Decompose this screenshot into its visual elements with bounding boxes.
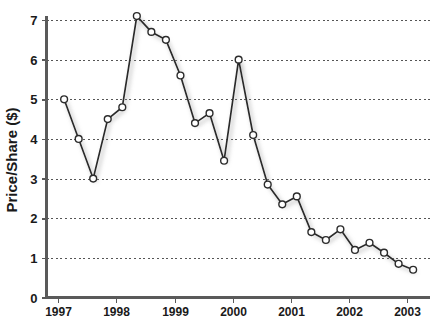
y-tick-label-7: 7: [30, 13, 37, 28]
x-axis-tick-labels: 1997199819992000200120022003: [45, 305, 421, 319]
data-point-marker: [264, 181, 271, 188]
x-tick-label-1997: 1997: [45, 305, 72, 319]
data-point-marker: [192, 120, 199, 127]
data-point-marker: [148, 29, 155, 36]
y-axis-title: Price/Share ($): [3, 107, 20, 212]
data-point-marker: [337, 226, 344, 233]
x-tick-label-2001: 2001: [278, 305, 305, 319]
data-point-marker: [395, 260, 402, 267]
data-point-marker: [104, 116, 111, 123]
x-axis: 1997199819992000200120022003: [45, 298, 430, 319]
data-point-marker: [293, 193, 300, 200]
y-tick-label-6: 6: [30, 53, 37, 68]
y-tick-label-2: 2: [30, 211, 37, 226]
data-point-marker: [75, 136, 82, 143]
x-tick-label-2002: 2002: [336, 305, 363, 319]
data-point-marker: [381, 249, 388, 256]
x-tick-label-2000: 2000: [220, 305, 247, 319]
y-tick-label-4: 4: [30, 132, 38, 147]
data-point-marker: [410, 266, 417, 273]
data-point-marker: [279, 201, 286, 208]
y-axis-tick-labels: 01234567: [30, 13, 38, 305]
data-point-marker: [133, 13, 140, 20]
y-tick-label-3: 3: [30, 172, 37, 187]
x-tick-label-1998: 1998: [103, 305, 130, 319]
data-point-marker: [119, 104, 126, 111]
data-point-marker: [177, 72, 184, 79]
data-point-marker: [221, 157, 228, 164]
price-per-share-line-chart: 01234567 1997199819992000200120022003 Pr…: [0, 0, 437, 322]
x-tick-label-1999: 1999: [162, 305, 189, 319]
y-tick-label-5: 5: [30, 92, 37, 107]
data-point-marker: [61, 96, 68, 103]
chart-canvas: 01234567 1997199819992000200120022003 Pr…: [0, 0, 437, 322]
data-point-markers: [61, 13, 417, 273]
x-tick-label-2003: 2003: [394, 305, 421, 319]
y-axis: 01234567: [30, 13, 46, 305]
data-point-marker: [308, 229, 315, 236]
data-point-marker: [322, 237, 329, 244]
data-point-marker: [250, 132, 257, 139]
data-point-marker: [163, 36, 170, 43]
data-point-marker: [352, 247, 359, 254]
y-tick-label-0: 0: [30, 291, 37, 306]
series-line-price-per-share: [64, 16, 413, 270]
data-point-marker: [90, 175, 97, 182]
data-point-marker: [366, 239, 373, 246]
data-point-marker: [206, 110, 213, 117]
data-series-price-per-share: [64, 16, 413, 270]
data-point-marker: [235, 56, 242, 63]
y-tick-label-1: 1: [30, 251, 37, 266]
